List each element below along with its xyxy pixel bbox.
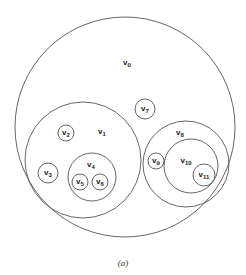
label-subscript-v5: 5 xyxy=(81,181,85,187)
label-v0: v0 xyxy=(123,58,131,67)
label-subscript-v0: 0 xyxy=(128,62,132,68)
label-v1: v1 xyxy=(98,127,106,136)
label-subscript-v7: 7 xyxy=(146,108,150,114)
label-subscript-v2: 2 xyxy=(67,132,71,138)
label-v11: v11 xyxy=(199,170,210,179)
label-subscript-v8: 8 xyxy=(181,132,185,138)
label-v3: v3 xyxy=(44,168,52,177)
label-v6: v6 xyxy=(96,177,104,186)
figure-caption: (a) xyxy=(0,258,246,268)
label-v5: v5 xyxy=(76,177,84,186)
node-v9: v9 xyxy=(148,153,164,169)
node-v1: v1 xyxy=(25,102,141,218)
node-v2: v2 xyxy=(58,125,74,141)
label-v2: v2 xyxy=(62,128,70,137)
label-v8: v8 xyxy=(176,128,184,137)
label-subscript-v4: 4 xyxy=(92,164,96,170)
label-subscript-v10: 10 xyxy=(185,160,192,166)
label-v9: v9 xyxy=(152,156,160,165)
label-subscript-v6: 6 xyxy=(101,181,105,187)
node-v3: v3 xyxy=(38,163,58,183)
label-subscript-v3: 3 xyxy=(49,172,53,178)
label-v4: v4 xyxy=(87,160,95,169)
label-v7: v7 xyxy=(141,104,149,113)
circle-v1 xyxy=(25,102,141,218)
node-v7: v7 xyxy=(135,99,155,119)
node-v6: v6 xyxy=(92,174,108,190)
node-v11: v11 xyxy=(193,164,215,186)
label-subscript-v1: 1 xyxy=(103,131,107,137)
label-subscript-v11: 11 xyxy=(203,174,210,180)
nested-circle-diagram: v0v1v2v3v4v5v6v7v8v9v10v11 xyxy=(0,0,246,275)
label-v10: v10 xyxy=(180,156,192,165)
label-subscript-v9: 9 xyxy=(157,160,161,166)
node-v5: v5 xyxy=(72,174,88,190)
